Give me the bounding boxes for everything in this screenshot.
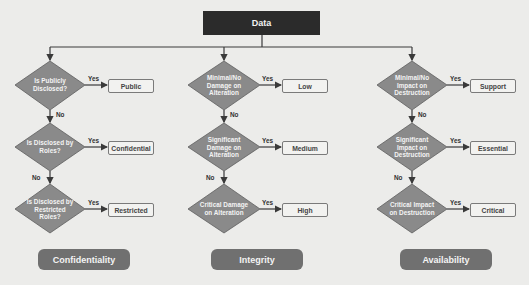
no-label: No: [32, 174, 41, 181]
yes-label: Yes: [450, 75, 461, 82]
category-confidentiality: Confidentiality: [38, 249, 130, 270]
result-confidential: Confidential: [108, 141, 154, 155]
decision-label: Is Disclosed by Restricted Roles?: [24, 198, 76, 221]
no-label: No: [418, 111, 427, 118]
yes-label: Yes: [262, 137, 273, 144]
decision-label: Minimal/No Impact on Destruction: [387, 74, 437, 97]
result-restricted: Restricted: [108, 203, 154, 217]
result-medium: Medium: [282, 141, 328, 155]
yes-label: Yes: [88, 199, 99, 206]
decision-label: Critical Damage on Alteration: [198, 201, 250, 216]
no-label: No: [206, 174, 215, 181]
decision-label: Is Disclosed by Roles?: [20, 139, 80, 154]
yes-label: Yes: [88, 137, 99, 144]
yes-label: Yes: [450, 199, 461, 206]
category-availability: Availability: [400, 249, 492, 270]
yes-label: Yes: [262, 75, 273, 82]
root-node-data: Data: [203, 11, 320, 35]
decision-label: Significant Damage on Alteration: [198, 136, 250, 159]
category-integrity: Integrity: [211, 249, 303, 270]
no-label: No: [230, 111, 239, 118]
result-public: Public: [108, 79, 154, 93]
decision-label: Critical Impact on Destruction: [387, 201, 437, 216]
yes-label: Yes: [262, 199, 273, 206]
decision-label: Significant Impact on Destruction: [387, 136, 437, 159]
decision-label: Is Publicly Disclosed?: [20, 77, 80, 92]
result-high: High: [282, 203, 328, 217]
no-label: No: [56, 111, 65, 118]
no-label: No: [394, 174, 403, 181]
yes-label: Yes: [88, 75, 99, 82]
yes-label: Yes: [450, 137, 461, 144]
result-essential: Essential: [470, 141, 516, 155]
result-support: Support: [470, 79, 516, 93]
decision-label: Minimal/No Damage on Alteration: [198, 74, 250, 97]
result-critical: Critical: [470, 203, 516, 217]
result-low: Low: [282, 79, 328, 93]
